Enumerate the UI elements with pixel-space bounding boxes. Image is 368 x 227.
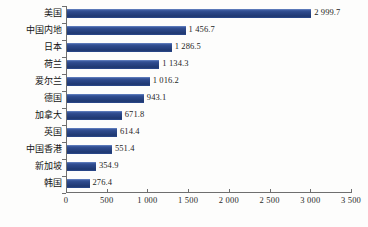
bar (67, 179, 90, 188)
bar (67, 77, 150, 86)
bar (67, 43, 172, 52)
bar-value-label: 1 134.3 (162, 58, 188, 69)
bar (67, 60, 159, 69)
bar (67, 128, 117, 137)
bar-value-label: 276.4 (93, 177, 113, 188)
x-axis-tick-label: 1 500 (178, 195, 198, 205)
bar-value-label: 2 999.7 (314, 7, 340, 18)
bar-row: 新加坡354.9 (0, 159, 368, 176)
bar-value-label: 943.1 (147, 92, 167, 103)
bar-container (67, 162, 96, 171)
x-axis-tick-label: 0 (64, 195, 68, 205)
category-label: 韩国 (4, 178, 66, 189)
bar-container (67, 145, 112, 154)
category-label: 德国 (4, 93, 66, 104)
bar-row: 德国943.1 (0, 91, 368, 108)
x-axis-tick-label: 3 500 (341, 195, 361, 205)
bar-container (67, 128, 117, 137)
bar-value-label: 1 456.7 (189, 24, 215, 35)
category-label: 中国内地 (4, 25, 66, 36)
bar-container (67, 26, 186, 35)
bar-value-label: 551.4 (115, 143, 135, 154)
bar-value-label: 1 016.2 (153, 75, 179, 86)
bar-row: 荷兰1 134.3 (0, 57, 368, 74)
bar (67, 26, 186, 35)
bar-container (67, 179, 90, 188)
category-label: 荷兰 (4, 59, 66, 70)
bar-container (67, 77, 150, 86)
category-label: 新加坡 (4, 161, 66, 172)
bar (67, 94, 144, 103)
bar-container (67, 60, 159, 69)
bar-container (67, 111, 122, 120)
category-label: 爱尔兰 (4, 76, 66, 87)
bar-rows: 美国2 999.7中国内地1 456.7日本1 286.5荷兰1 134.3爱尔… (0, 6, 368, 193)
bar-container (67, 9, 311, 18)
x-axis-tick-label: 2 500 (260, 195, 280, 205)
bar (67, 111, 122, 120)
bar-value-label: 614.4 (120, 126, 140, 137)
x-axis-tick-label: 500 (100, 195, 113, 205)
bar-container (67, 43, 172, 52)
bar-row: 韩国276.4 (0, 176, 368, 193)
bar (67, 145, 112, 154)
x-axis-tick-label: 3 000 (300, 195, 320, 205)
category-label: 加拿大 (4, 110, 66, 121)
x-axis-tick-label: 2 000 (219, 195, 239, 205)
bar-row: 加拿大671.8 (0, 108, 368, 125)
bar-chart: 05001 0001 5002 0002 5003 0003 500 美国2 9… (0, 0, 368, 227)
bar-row: 中国香港551.4 (0, 142, 368, 159)
bar-value-label: 354.9 (99, 160, 119, 171)
x-axis-tick-label: 1 000 (137, 195, 157, 205)
bar-row: 日本1 286.5 (0, 40, 368, 57)
bar-value-label: 1 286.5 (175, 41, 201, 52)
category-label: 日本 (4, 42, 66, 53)
bar (67, 162, 96, 171)
bar-row: 中国内地1 456.7 (0, 23, 368, 40)
bar-row: 英国614.4 (0, 125, 368, 142)
bar-row: 美国2 999.7 (0, 6, 368, 23)
bar (67, 9, 311, 18)
bar-row: 爱尔兰1 016.2 (0, 74, 368, 91)
bar-container (67, 94, 144, 103)
category-label: 美国 (4, 8, 66, 19)
category-label: 英国 (4, 127, 66, 138)
bar-value-label: 671.8 (125, 109, 145, 120)
y-axis-tick (62, 193, 66, 194)
category-label: 中国香港 (4, 144, 66, 155)
